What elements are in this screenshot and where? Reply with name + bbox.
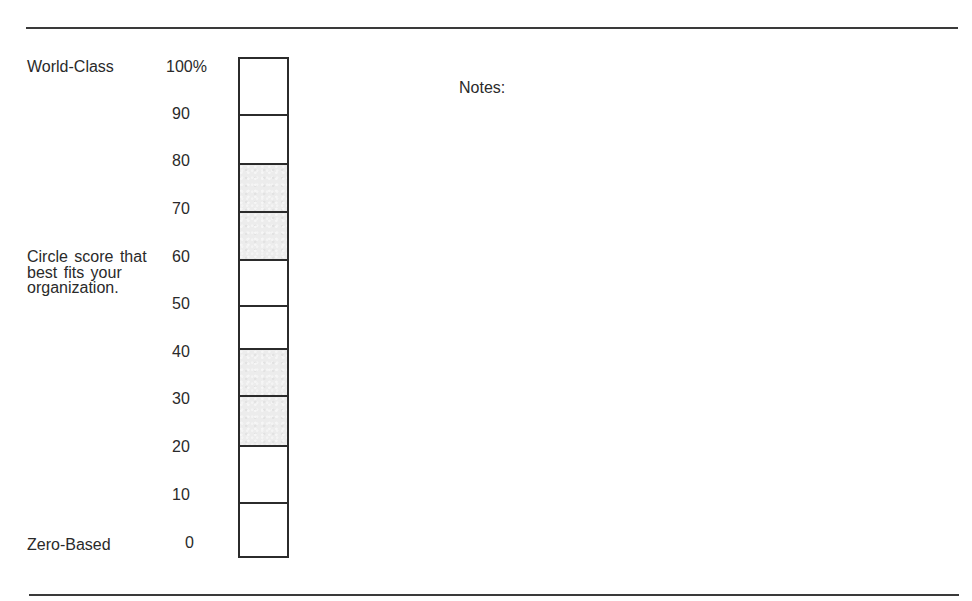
notes-label: Notes: <box>459 80 505 96</box>
tick-100: 100% <box>166 59 226 75</box>
tick-70: 70 <box>172 201 232 217</box>
score-cell-40-50[interactable] <box>240 305 287 348</box>
score-cell-30-40[interactable] <box>240 348 287 395</box>
tick-0: 0 <box>185 535 245 551</box>
score-cell-10-20[interactable] <box>240 445 287 502</box>
tick-80: 80 <box>172 153 232 169</box>
instruction-text: Circle score that best fits your organiz… <box>27 249 152 296</box>
tick-50: 50 <box>172 296 232 312</box>
tick-90: 90 <box>172 106 232 122</box>
tick-40: 40 <box>172 344 232 360</box>
score-cell-60-70[interactable] <box>240 211 287 259</box>
score-cell-90-100[interactable] <box>240 59 287 114</box>
tick-20: 20 <box>172 439 232 455</box>
score-cell-70-80[interactable] <box>240 163 287 211</box>
top-divider <box>26 27 958 29</box>
tick-30: 30 <box>172 391 232 407</box>
score-cell-80-90[interactable] <box>240 114 287 163</box>
bottom-divider <box>29 594 959 596</box>
zero-based-label: Zero-Based <box>27 537 111 553</box>
score-cell-0-10[interactable] <box>240 502 287 556</box>
score-cell-50-60[interactable] <box>240 259 287 305</box>
world-class-label: World-Class <box>27 59 114 75</box>
tick-10: 10 <box>172 487 232 503</box>
score-cell-20-30[interactable] <box>240 395 287 445</box>
tick-60: 60 <box>172 249 232 265</box>
score-scale <box>238 57 289 558</box>
